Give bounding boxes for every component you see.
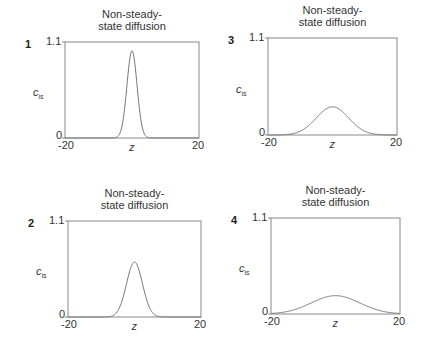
plot-frame (271, 218, 400, 314)
plot-area (0, 0, 430, 359)
concentration-curve (271, 296, 400, 314)
